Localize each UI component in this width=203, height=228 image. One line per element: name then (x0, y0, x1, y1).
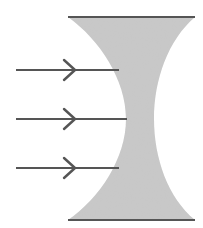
ray-3 (16, 158, 119, 178)
diagram-canvas (0, 0, 203, 228)
ray-1 (16, 60, 119, 80)
incoming-rays (16, 60, 127, 178)
diverging-lens-diagram: Diverging (biconcave) lens with three pa… (0, 0, 203, 228)
ray-2 (16, 109, 127, 129)
